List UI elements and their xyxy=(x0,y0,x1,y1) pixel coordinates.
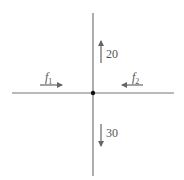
f2-label: f2 xyxy=(132,70,139,86)
down-force-label: 30 xyxy=(106,126,118,140)
force-diagram: 20 30 f1 f2 xyxy=(0,0,184,180)
f1-label: f1 xyxy=(45,70,52,86)
origin-point xyxy=(91,91,95,95)
up-force-label: 20 xyxy=(106,47,118,61)
